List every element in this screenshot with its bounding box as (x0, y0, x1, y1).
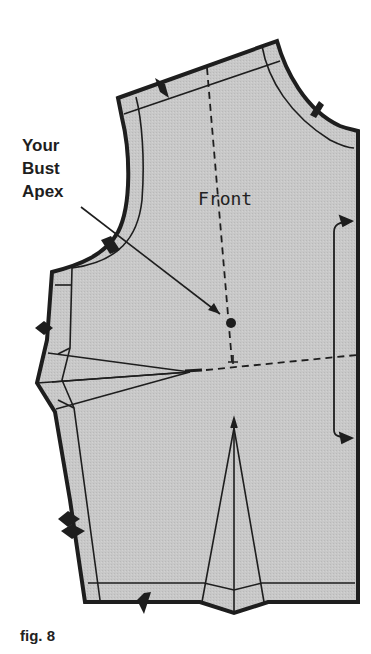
bust-apex-label-line-3: Apex (22, 180, 64, 203)
figure-caption: fig. 8 (20, 627, 55, 644)
bust-apex-label: Your Bust Apex (22, 134, 64, 203)
bust-apex-label-line-1: Your (22, 134, 64, 157)
bust-apex-label-line-2: Bust (22, 157, 64, 180)
pattern-outline (37, 41, 358, 613)
bust-apex-dot (226, 318, 236, 328)
pattern-drawing (0, 0, 371, 654)
bodice-front-pattern-figure: Your Bust Apex Front fig. 8 (0, 0, 371, 654)
front-label: Front (198, 188, 252, 209)
